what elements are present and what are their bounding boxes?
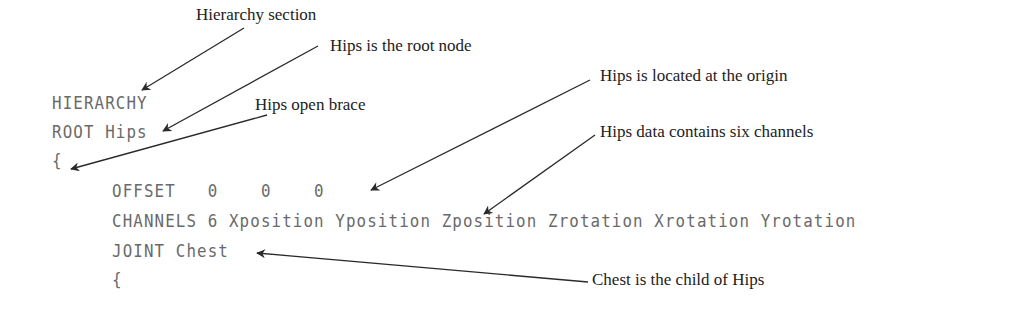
arrow-hierarchy-icon <box>142 28 244 90</box>
arrow-open-brace-icon <box>71 115 267 169</box>
annotation-arrows <box>0 0 1018 312</box>
arrow-channels-icon <box>484 135 595 214</box>
arrow-chest-child-icon <box>257 253 588 282</box>
arrow-root-icon <box>163 46 318 131</box>
arrow-origin-icon <box>371 80 590 190</box>
